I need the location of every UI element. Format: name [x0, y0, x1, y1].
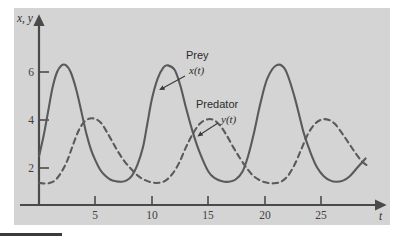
x-tick-label-5: 5: [92, 209, 98, 221]
figure-container: 2 4 6 5 10 15 20 25 x, y t Prey x(t) Pre…: [0, 0, 399, 242]
prey-annotation-label: Prey: [186, 49, 209, 61]
x-axis-label: t: [379, 210, 383, 222]
predator-annotation-function: y(t): [220, 113, 237, 126]
prey-annotation-function: x(t): [188, 64, 205, 77]
predator-prey-plot: 2 4 6 5 10 15 20 25 x, y t Prey x(t) Pre…: [0, 0, 399, 242]
x-tick-label-15: 15: [202, 209, 214, 221]
y-tick-label-4: 4: [28, 114, 34, 126]
x-tick-label-20: 20: [259, 209, 271, 221]
x-tick-label-10: 10: [146, 209, 158, 221]
predator-annotation-label: Predator: [196, 98, 239, 110]
y-axis-label: x, y: [16, 12, 34, 25]
x-ticks: [95, 196, 321, 205]
predator-curve: [39, 118, 367, 183]
y-tick-label-2: 2: [28, 162, 34, 174]
x-tick-label-25: 25: [315, 209, 327, 221]
predator-leader-line: [201, 123, 218, 134]
prey-leader-line: [163, 76, 185, 88]
y-tick-label-6: 6: [28, 66, 34, 78]
